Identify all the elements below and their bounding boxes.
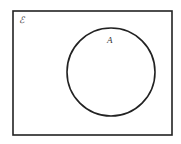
universal-set-rectangle bbox=[13, 11, 172, 135]
set-a-label: A bbox=[106, 35, 113, 45]
venn-diagram: ℰ A bbox=[0, 0, 181, 144]
